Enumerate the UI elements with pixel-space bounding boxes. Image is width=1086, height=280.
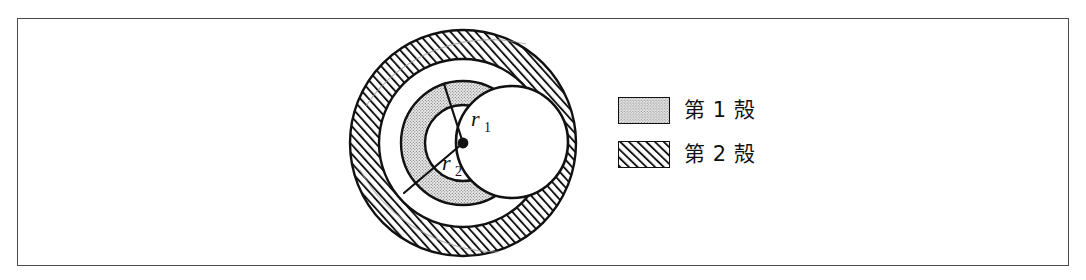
legend-swatch-hatched	[618, 141, 670, 168]
legend-item-shell-1: 第 1 殻	[618, 88, 858, 132]
legend: 第 1 殻 第 2 殻	[618, 88, 858, 188]
r2-label: r	[442, 150, 451, 175]
legend-swatch-dotted	[618, 97, 670, 124]
shell-diagram: r 1 r 2	[330, 20, 600, 260]
legend-item-shell-2: 第 2 殻	[618, 132, 858, 176]
r1-label-subscript: 1	[484, 120, 491, 135]
r2-label-subscript: 2	[455, 164, 462, 179]
nucleus-dot	[458, 138, 469, 149]
r1-label: r	[471, 106, 480, 131]
legend-label-shell-1: 第 1 殻	[684, 100, 755, 121]
figure-root: r 1 r 2 第 1 殻 第 2 殻	[0, 0, 1086, 280]
legend-label-shell-2: 第 2 殻	[684, 144, 755, 165]
